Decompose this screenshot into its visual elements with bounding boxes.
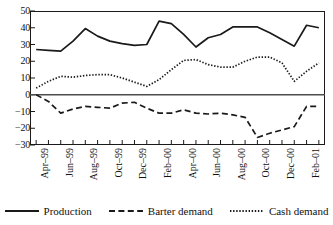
- series-line-production: [36, 21, 319, 51]
- line-chart: 50403020100−10−20−30 Apr–99Jun–99Aug–99O…: [0, 0, 333, 225]
- legend-label: Barter demand: [148, 206, 213, 217]
- x-tick-label: Apr–99: [40, 148, 50, 179]
- x-axis: Apr–99Jun–99Aug–99Oct–99Dec–99Feb–00Apr–…: [30, 146, 325, 198]
- x-tick-label: Aug–99: [89, 148, 99, 180]
- x-tick-label: Jun–00: [212, 148, 222, 177]
- legend-label: Cash demand: [269, 206, 329, 217]
- x-tick-label: Oct–99: [114, 148, 124, 177]
- series-line-cash-demand: [36, 57, 319, 88]
- x-tick-label: Oct–00: [261, 148, 271, 177]
- legend-swatch-solid: [5, 206, 39, 216]
- x-tick-label: Dec–00: [286, 148, 296, 179]
- x-tick-label: Jun–99: [65, 148, 75, 177]
- legend-label: Production: [44, 206, 92, 217]
- chart-legend: ProductionBarter demandCash demand: [0, 200, 333, 222]
- x-tick-label: Dec–99: [138, 148, 148, 179]
- x-tick-label: Apr–00: [188, 148, 198, 179]
- series-line-barter-demand: [36, 95, 319, 138]
- x-tick-label: Aug–00: [237, 148, 247, 180]
- legend-swatch-dotted: [230, 206, 264, 216]
- legend-item-production: Production: [5, 206, 92, 217]
- x-tick-label: Feb–00: [163, 148, 173, 178]
- legend-item-barter-demand: Barter demand: [109, 206, 213, 217]
- legend-item-cash-demand: Cash demand: [230, 206, 329, 217]
- x-tick-label: Feb–01: [311, 148, 321, 178]
- legend-swatch-dashed: [109, 206, 143, 216]
